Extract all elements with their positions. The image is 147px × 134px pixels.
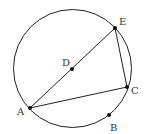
segment-ec — [115, 28, 127, 87]
label-b: B — [110, 122, 117, 133]
label-d: D — [62, 57, 70, 68]
label-e: E — [119, 16, 126, 27]
geometry-diagram: A B C D E — [0, 0, 147, 134]
segment-ac — [30, 87, 127, 108]
point-b — [107, 113, 111, 117]
point-d — [70, 67, 74, 71]
label-c: C — [131, 85, 139, 96]
point-a — [28, 106, 32, 110]
label-a: A — [16, 106, 25, 117]
point-c — [125, 85, 129, 89]
point-e — [113, 26, 117, 30]
